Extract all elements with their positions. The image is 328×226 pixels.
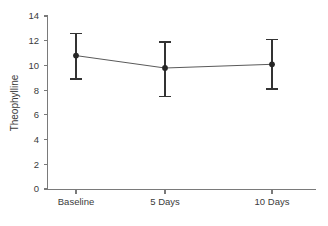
y-tick-label-4: 4: [34, 134, 39, 145]
y-tick-label-6: 6: [34, 109, 39, 120]
y-tick-label-2: 2: [34, 159, 39, 170]
chart-container: 0 2 4 6 8 10 12 14 Theophylline Baseline…: [0, 0, 328, 226]
y-tick-label-12: 12: [28, 35, 39, 46]
y-tick-label-10: 10: [28, 60, 39, 71]
y-tick-label-14: 14: [28, 10, 39, 21]
y-tick-label-0: 0: [34, 183, 39, 194]
chart-background: [0, 0, 328, 226]
x-tick-label-baseline: Baseline: [58, 196, 94, 207]
line-chart-with-error-bars: 0 2 4 6 8 10 12 14 Theophylline Baseline…: [0, 0, 328, 226]
data-point-baseline: [73, 53, 79, 59]
x-tick-label-5-days: 5 Days: [150, 196, 180, 207]
y-tick-label-8: 8: [34, 85, 39, 96]
data-point-5-days: [162, 65, 168, 71]
y-axis-title: Theophylline: [9, 74, 20, 131]
x-tick-label-10-days: 10 Days: [255, 196, 290, 207]
data-point-10-days: [269, 61, 275, 67]
